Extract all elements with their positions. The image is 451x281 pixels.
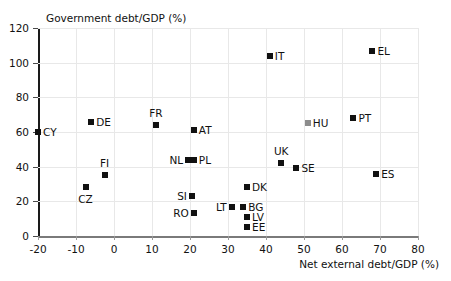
y-axis-tick <box>33 28 38 29</box>
data-point-label-el: EL <box>377 45 389 56</box>
x-axis-tick <box>342 236 343 240</box>
data-point-label-es: ES <box>381 168 394 179</box>
x-axis-tick-label: 30 <box>208 244 248 255</box>
scatter-chart: Government debt/GDP (%) CYDECZFIFRATNLPL… <box>0 0 451 281</box>
x-axis-tick <box>190 236 191 240</box>
data-point-label-fi: FI <box>100 158 109 169</box>
x-axis-tick-label: 0 <box>94 244 134 255</box>
data-point-fi[interactable] <box>102 172 108 178</box>
data-point-bg[interactable] <box>240 204 246 210</box>
data-point-cz[interactable] <box>83 184 89 190</box>
x-axis-tick <box>152 236 153 240</box>
x-axis-tick <box>228 236 229 240</box>
y-axis-tick-label: 120 <box>0 23 29 34</box>
data-point-label-si: SI <box>177 191 187 202</box>
y-axis-tick <box>33 63 38 64</box>
y-axis-tick-label: 0 <box>0 231 29 242</box>
data-point-label-cy: CY <box>43 127 57 138</box>
x-axis-tick-label: 70 <box>360 244 400 255</box>
y-axis-tick-label: 80 <box>0 92 29 103</box>
x-axis-tick-label: 20 <box>170 244 210 255</box>
data-point-label-nl: NL <box>169 154 183 165</box>
x-axis-tick <box>114 236 115 240</box>
x-axis-tick-label: -10 <box>56 244 96 255</box>
data-point-pt[interactable] <box>350 115 356 121</box>
x-axis-tick <box>418 236 419 240</box>
x-axis-title: Net external debt/GDP (%) <box>299 258 439 270</box>
x-axis-tick <box>380 236 381 240</box>
x-axis-tick-label: 60 <box>322 244 362 255</box>
data-point-es[interactable] <box>373 171 379 177</box>
data-point-dk[interactable] <box>244 184 250 190</box>
data-point-label-uk: UK <box>274 146 289 157</box>
data-point-label-pl: PL <box>199 154 211 165</box>
data-point-label-hu: HU <box>313 118 329 129</box>
data-point-label-dk: DK <box>252 182 267 193</box>
data-point-fr[interactable] <box>153 122 159 128</box>
data-point-ro[interactable] <box>191 210 197 216</box>
y-axis-tick-label: 100 <box>0 58 29 69</box>
x-axis-tick <box>76 236 77 240</box>
data-point-hu[interactable] <box>305 120 311 126</box>
data-point-si[interactable] <box>189 193 195 199</box>
gridline-horizontal <box>38 167 418 168</box>
data-point-el[interactable] <box>369 48 375 54</box>
data-point-label-it: IT <box>275 50 285 61</box>
data-point-lv[interactable] <box>244 214 250 220</box>
x-axis-tick-label: 10 <box>132 244 172 255</box>
x-axis-tick-label: 40 <box>246 244 286 255</box>
y-axis-tick-label: 20 <box>0 196 29 207</box>
gridline-horizontal <box>38 201 418 202</box>
x-axis-tick-label: 80 <box>398 244 438 255</box>
plot-area: CYDECZFIFRATNLPLSIROLTBGDKLVEEITUKSEHUPT… <box>38 28 418 236</box>
data-point-label-fr: FR <box>149 108 162 119</box>
data-point-lt[interactable] <box>229 204 235 210</box>
gridline-horizontal <box>38 63 418 64</box>
data-point-pl[interactable] <box>191 157 197 163</box>
x-axis-tick <box>38 236 39 240</box>
x-axis-tick-label: -20 <box>18 244 58 255</box>
data-point-label-at: AT <box>199 125 212 136</box>
data-point-ee[interactable] <box>244 224 250 230</box>
gridline-horizontal <box>38 28 418 29</box>
data-point-uk[interactable] <box>278 160 284 166</box>
x-axis-tick <box>304 236 305 240</box>
x-axis-tick <box>266 236 267 240</box>
data-point-it[interactable] <box>267 53 273 59</box>
gridline-horizontal <box>38 132 418 133</box>
data-point-label-se: SE <box>301 163 314 174</box>
data-point-label-de: DE <box>96 116 111 127</box>
y-axis-tick-label: 40 <box>0 162 29 173</box>
data-point-cy[interactable] <box>35 129 41 135</box>
data-point-label-ee: EE <box>252 222 265 233</box>
gridline-horizontal <box>38 97 418 98</box>
data-point-at[interactable] <box>191 127 197 133</box>
y-axis-tick <box>33 167 38 168</box>
y-axis-tick <box>33 97 38 98</box>
y-axis-title: Government debt/GDP (%) <box>46 12 186 24</box>
data-point-de[interactable] <box>88 119 94 125</box>
gridline-vertical <box>418 28 419 236</box>
x-axis-tick-label: 50 <box>284 244 324 255</box>
data-point-label-ro: RO <box>173 208 189 219</box>
y-axis-tick <box>33 201 38 202</box>
data-point-se[interactable] <box>293 165 299 171</box>
data-point-label-pt: PT <box>358 113 371 124</box>
y-axis-tick-label: 60 <box>0 127 29 138</box>
data-point-label-lt: LT <box>216 201 227 212</box>
data-point-label-cz: CZ <box>78 194 93 205</box>
